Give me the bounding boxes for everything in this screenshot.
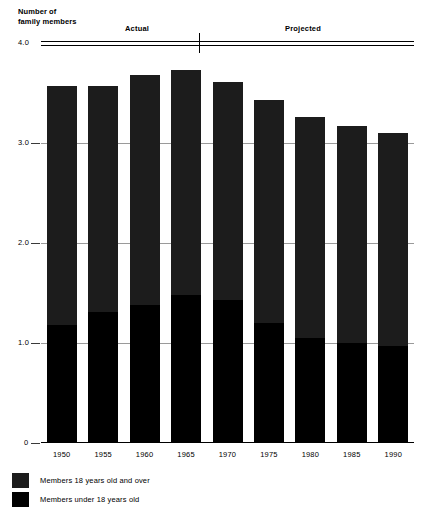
- bar-1970: [213, 82, 243, 443]
- plot-area: [41, 43, 414, 443]
- x-tick-label-1955: 1955: [81, 450, 125, 459]
- x-tick-label-1950: 1950: [40, 450, 84, 459]
- legend-label: Members under 18 years old: [40, 495, 139, 504]
- x-tick-label-1965: 1965: [164, 450, 208, 459]
- legend-item: Members under 18 years old: [12, 491, 312, 510]
- bar-1960: [130, 75, 160, 443]
- bar-1980: [295, 117, 325, 443]
- bar-segment-under-18: [337, 343, 367, 443]
- bar-segment-18-and-over: [88, 86, 118, 312]
- bar-segment-under-18: [171, 295, 201, 443]
- bar-segment-under-18: [254, 323, 284, 443]
- bar-segment-under-18: [378, 346, 408, 443]
- bar-1965: [171, 70, 201, 443]
- period-label-actual: Actual: [125, 24, 149, 33]
- legend-swatch-icon: [12, 492, 29, 507]
- bar-segment-under-18: [47, 325, 77, 443]
- bar-1985: [337, 126, 367, 443]
- legend-item: Members 18 years old and over: [12, 472, 312, 491]
- chart-legend: Members 18 years old and overMembers und…: [12, 472, 312, 510]
- x-tick-label-1970: 1970: [206, 450, 250, 459]
- bar-segment-under-18: [295, 338, 325, 443]
- y-tick-dash: [31, 443, 40, 444]
- bar-segment-18-and-over: [295, 117, 325, 338]
- bar-segment-18-and-over: [337, 126, 367, 343]
- stacked-bar-chart: Number of family members Actual Projecte…: [0, 0, 430, 520]
- bar-segment-under-18: [88, 312, 118, 443]
- bar-segment-18-and-over: [378, 133, 408, 346]
- legend-label: Members 18 years old and over: [40, 476, 150, 485]
- period-label-projected: Projected: [285, 24, 321, 33]
- y-tick-label: 4.0: [18, 38, 48, 47]
- bar-segment-under-18: [213, 300, 243, 443]
- x-tick-label-1960: 1960: [123, 450, 167, 459]
- y-tick-dash: [31, 243, 40, 244]
- bar-segment-under-18: [130, 305, 160, 443]
- x-tick-label-1975: 1975: [247, 450, 291, 459]
- x-tick-label-1985: 1985: [330, 450, 374, 459]
- y-tick-dash: [31, 343, 40, 344]
- bar-1950: [47, 86, 77, 443]
- bar-1990: [378, 133, 408, 443]
- bar-segment-18-and-over: [213, 82, 243, 300]
- bar-segment-18-and-over: [254, 100, 284, 323]
- y-tick-dash: [31, 143, 40, 144]
- y-axis-title: Number of family members: [18, 7, 77, 26]
- bar-1955: [88, 86, 118, 443]
- bar-segment-18-and-over: [171, 70, 201, 295]
- x-tick-label-1990: 1990: [371, 450, 415, 459]
- bar-segment-18-and-over: [47, 86, 77, 325]
- bar-segment-18-and-over: [130, 75, 160, 305]
- bar-1975: [254, 100, 284, 443]
- legend-swatch-icon: [12, 473, 29, 488]
- x-tick-label-1980: 1980: [288, 450, 332, 459]
